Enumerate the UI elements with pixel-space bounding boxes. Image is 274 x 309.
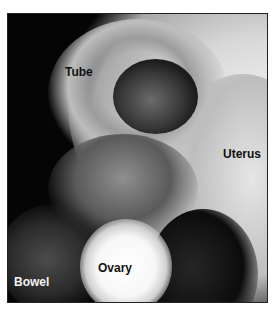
label-uterus: Uterus [223, 148, 261, 160]
label-tube: Tube [65, 66, 93, 78]
image-frame: Tube Uterus Ovary Bowel [7, 13, 268, 303]
label-ovary: Ovary [98, 262, 132, 274]
tube-opening [113, 59, 198, 134]
label-bowel: Bowel [14, 276, 49, 288]
